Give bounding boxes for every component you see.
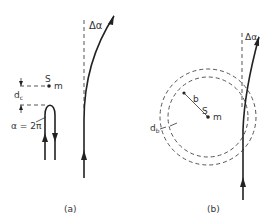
hairpin-arrow-down-icon (52, 133, 58, 142)
trajectory-arrowhead-top-icon (108, 15, 114, 25)
db-arrow-right (170, 123, 177, 126)
dc-arrowhead-top-icon (19, 81, 23, 86)
mass-symbol: m (54, 81, 63, 91)
mass-point (47, 84, 51, 88)
panel-a-caption: (a) (64, 204, 77, 214)
dc-arrowhead-bottom-icon (19, 105, 23, 110)
mass-symbol: m (213, 112, 222, 122)
db-label: db (150, 123, 160, 134)
deflected-trajectory (243, 37, 259, 200)
hairpin-trajectory (45, 105, 55, 160)
panel-b-caption: (b) (207, 204, 220, 214)
deflection-label: Δα (245, 32, 257, 42)
mass-label: S (45, 74, 51, 84)
diagram: Δα S m dc α = 2π (a) S m b (0, 0, 271, 223)
deflected-trajectory (84, 16, 114, 178)
deflection-label: Δα (89, 20, 103, 31)
panel-b: S m b db Δα (b) (150, 32, 259, 214)
trajectory-arrowhead-up-icon (81, 150, 87, 160)
trajectory-arrowhead-up-icon (240, 177, 246, 187)
panel-a: Δα S m dc α = 2π (a) (11, 15, 114, 214)
dc-label: dc (14, 90, 23, 101)
radius-label: b (193, 94, 199, 104)
hairpin-arrow-up-icon (42, 133, 48, 142)
loop-label: α = 2π (11, 121, 42, 131)
